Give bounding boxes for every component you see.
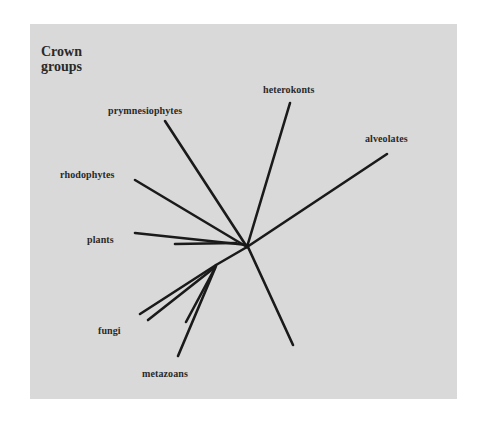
label-rhodophytes: rhodophytes (60, 169, 114, 180)
label-plants: plants (87, 234, 114, 245)
branch-alveolates (247, 154, 387, 247)
phylogenetic-tree (0, 0, 481, 422)
branch-metazoans-2 (178, 266, 216, 356)
label-metazoans: metazoans (142, 368, 188, 379)
label-prymnesiophytes: prymnesiophytes (108, 105, 182, 116)
branch-opisthokont-stem (216, 247, 247, 265)
branch-rhodophytes (135, 180, 247, 247)
branch-plants-2 (175, 243, 236, 244)
branch-heterokonts (247, 103, 290, 247)
branch-unlabeled (248, 247, 293, 345)
label-heterokonts: heterokonts (263, 84, 314, 95)
branch-prymnesiophytes (165, 121, 247, 247)
label-alveolates: alveolates (365, 133, 408, 144)
label-fungi: fungi (98, 325, 121, 336)
